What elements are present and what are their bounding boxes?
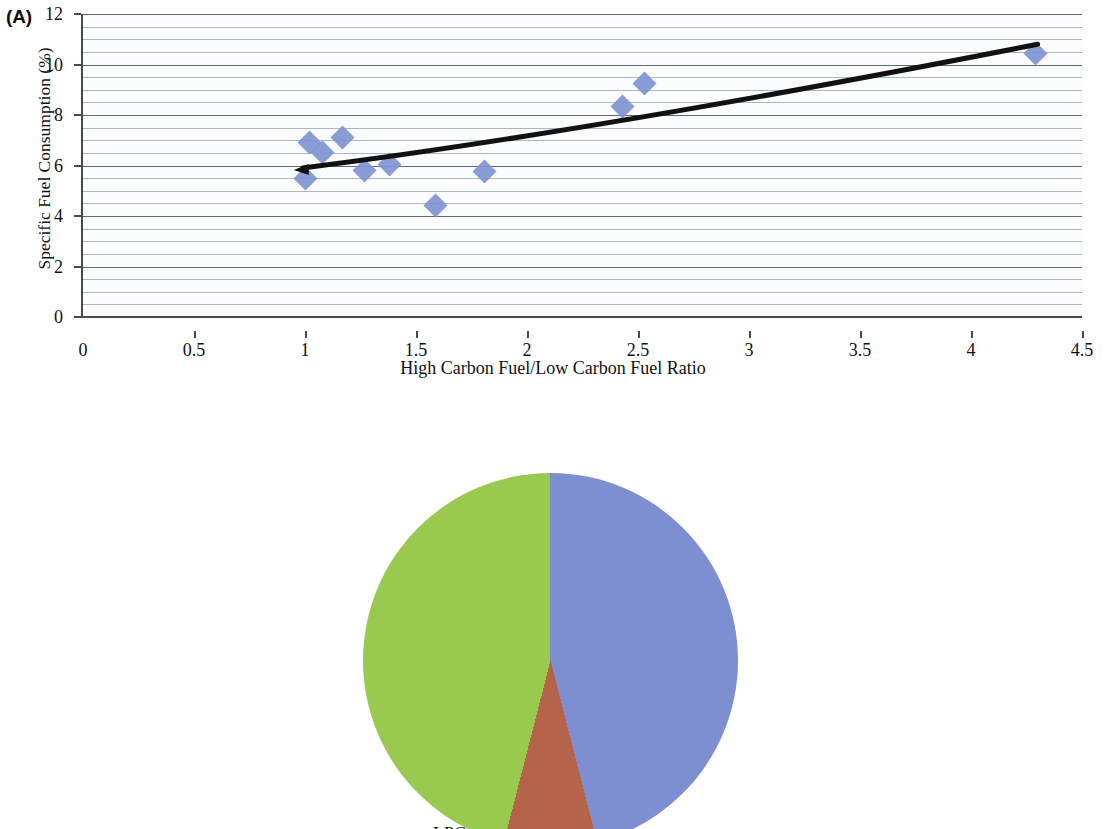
y-tick-mark xyxy=(74,316,81,318)
x-tick-mark xyxy=(860,331,862,338)
pie-wrapper xyxy=(363,473,738,829)
scatter-plot-inner xyxy=(83,14,1082,317)
gridline xyxy=(83,128,1082,129)
y-tick-label: 6 xyxy=(29,157,63,175)
scatter-point xyxy=(473,160,497,184)
gridline xyxy=(83,216,1082,217)
y-tick-label: 12 xyxy=(29,5,63,23)
gridline xyxy=(83,292,1082,293)
gridline xyxy=(83,102,1082,103)
gridline xyxy=(83,65,1082,66)
panel-b-pie-chart: (B) LPG 0% Nat Gas Mass Equiv of AGO+LPF… xyxy=(0,400,1106,829)
gridline xyxy=(83,267,1082,268)
gridline xyxy=(83,52,1082,53)
scatter-point xyxy=(293,166,317,190)
scatter-plot-area: 02468101200.511.522.533.544.5 xyxy=(81,14,1082,317)
x-tick-mark xyxy=(194,331,196,338)
gridline xyxy=(83,304,1082,305)
gridline xyxy=(83,229,1082,230)
x-tick-mark xyxy=(527,331,529,338)
x-tick-mark xyxy=(749,331,751,338)
y-tick-label: 8 xyxy=(29,106,63,124)
scatter-point xyxy=(424,194,448,218)
gridline xyxy=(83,203,1082,204)
y-tick-mark xyxy=(74,114,81,116)
gridline xyxy=(83,140,1082,141)
x-tick-mark xyxy=(305,331,307,338)
pie-graphic xyxy=(363,473,738,829)
x-tick-mark xyxy=(971,331,973,338)
y-tick-label: 4 xyxy=(29,207,63,225)
y-tick-label: 10 xyxy=(29,56,63,74)
x-axis-line xyxy=(81,316,1082,318)
gridline xyxy=(83,77,1082,78)
gridline xyxy=(83,153,1082,154)
scatter-point xyxy=(377,152,401,176)
gridline xyxy=(83,178,1082,179)
y-tick-label: 0 xyxy=(29,308,63,326)
y-tick-mark xyxy=(74,215,81,217)
gridline xyxy=(83,254,1082,255)
gridline xyxy=(83,90,1082,91)
gridline xyxy=(83,166,1082,167)
gridline xyxy=(83,39,1082,40)
pie-slice-label-lpg: LPG 0% xyxy=(370,823,530,829)
gridline xyxy=(83,115,1082,116)
gridline xyxy=(83,279,1082,280)
panel-a-scatter-chart: (A) Specific Fuel Consumption (%) 024681… xyxy=(0,0,1106,400)
scatter-point xyxy=(633,71,657,95)
gridline xyxy=(83,27,1082,28)
panel-a-label: (A) xyxy=(6,6,32,28)
y-tick-mark xyxy=(74,266,81,268)
gridline xyxy=(83,14,1082,15)
gridline xyxy=(83,241,1082,242)
scatter-point xyxy=(1023,41,1047,65)
x-tick-mark xyxy=(638,331,640,338)
x-axis-label: High Carbon Fuel/Low Carbon Fuel Ratio xyxy=(0,358,1106,379)
y-tick-mark xyxy=(74,165,81,167)
gridline xyxy=(83,191,1082,192)
x-tick-mark xyxy=(416,331,418,338)
x-tick-mark xyxy=(1082,331,1084,338)
scatter-point xyxy=(331,126,355,150)
y-tick-mark xyxy=(74,64,81,66)
y-tick-label: 2 xyxy=(29,258,63,276)
y-tick-mark xyxy=(74,13,81,15)
